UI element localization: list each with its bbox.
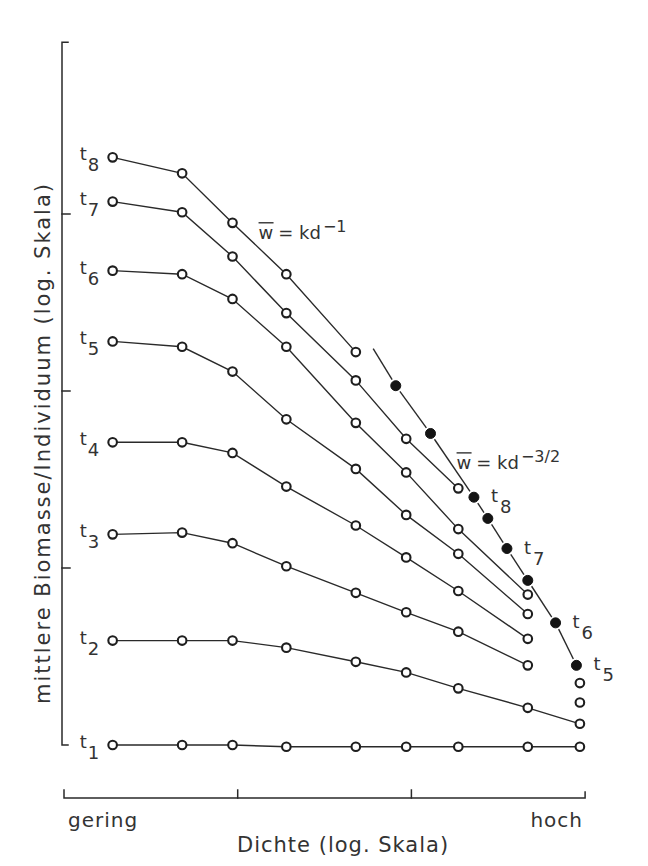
series-label-base: t bbox=[80, 731, 87, 752]
series-label-base: t bbox=[80, 327, 87, 348]
self-thinning-label-t7: t7 bbox=[524, 537, 544, 569]
series-label-subscript: 7 bbox=[88, 199, 99, 220]
x-axis-low-label: gering bbox=[68, 808, 138, 832]
series-label-t2: t2 bbox=[80, 627, 99, 659]
data-point-t7 bbox=[108, 197, 117, 206]
series-label-base: t bbox=[524, 537, 531, 558]
data-point-filled bbox=[551, 618, 561, 628]
series-line-t6 bbox=[113, 271, 528, 595]
data-point-t3 bbox=[576, 698, 585, 707]
data-point-t2 bbox=[576, 719, 585, 728]
self-thinning-line-segment bbox=[400, 391, 427, 427]
series-label-t6: t6 bbox=[80, 257, 99, 289]
data-point-t1 bbox=[108, 741, 117, 750]
data-point-t7 bbox=[282, 309, 291, 318]
series-label-subscript: 4 bbox=[88, 439, 99, 460]
data-point-filled bbox=[502, 544, 512, 554]
x-axis-line bbox=[64, 790, 585, 798]
data-point-t3 bbox=[402, 608, 411, 617]
biomass-density-chart: mittlere Biomasse/Individuum (log. Skala… bbox=[0, 0, 648, 866]
series-label-base: t bbox=[80, 627, 87, 648]
series-label-t4: t4 bbox=[80, 428, 99, 460]
series-line-t2 bbox=[113, 641, 580, 724]
data-point-t7 bbox=[454, 484, 463, 493]
equation-slope-minus-1: w= kd−1 bbox=[259, 217, 347, 243]
data-point-t6 bbox=[454, 525, 463, 534]
data-point-t8 bbox=[178, 169, 187, 178]
data-point-t6 bbox=[228, 295, 237, 304]
data-point-t6 bbox=[352, 419, 361, 428]
self-thinning-label-t5: t5 bbox=[593, 653, 613, 685]
series-label-subscript: 7 bbox=[533, 548, 544, 569]
data-point-t6 bbox=[178, 270, 187, 279]
axes bbox=[62, 42, 585, 798]
data-point-t3 bbox=[178, 528, 187, 537]
equation-rhs: = kd bbox=[476, 452, 519, 473]
series-label-t1: t1 bbox=[80, 731, 99, 763]
series-label-base: t bbox=[80, 428, 87, 449]
equation-exponent: −3/2 bbox=[521, 447, 560, 466]
data-point-filled bbox=[523, 575, 533, 585]
data-point-t6 bbox=[108, 266, 117, 275]
data-point-t8 bbox=[282, 270, 291, 279]
series-label-t7: t7 bbox=[80, 188, 99, 220]
data-point-t2 bbox=[402, 668, 411, 677]
data-point-t5 bbox=[108, 337, 117, 346]
data-point-t5 bbox=[402, 511, 411, 520]
y-axis-label: mittlere Biomasse/Individuum (log. Skala… bbox=[31, 182, 55, 704]
data-point-t3 bbox=[523, 661, 532, 670]
data-point-t1 bbox=[228, 741, 237, 750]
data-point-t5 bbox=[454, 550, 463, 559]
data-point-t7 bbox=[178, 208, 187, 217]
data-point-filled bbox=[391, 381, 401, 391]
data-point-t2 bbox=[454, 684, 463, 693]
data-point-t3 bbox=[454, 627, 463, 636]
figure: mittlere Biomasse/Individuum (log. Skala… bbox=[0, 0, 648, 866]
data-point-filled bbox=[426, 428, 436, 438]
series-label-base: t bbox=[491, 485, 498, 506]
series-label-subscript: 2 bbox=[88, 638, 99, 659]
data-point-t1 bbox=[576, 742, 585, 751]
data-point-t7 bbox=[228, 252, 237, 261]
data-point-t2 bbox=[352, 658, 361, 667]
series-label-subscript: 3 bbox=[88, 531, 99, 552]
equation-variable: w bbox=[259, 222, 274, 243]
data-point-t8 bbox=[108, 153, 117, 162]
series-label-subscript: 6 bbox=[88, 268, 99, 289]
self-thinning-line-segment bbox=[492, 524, 504, 542]
self-thinning-line-segment bbox=[478, 503, 484, 513]
series-label-subscript: 6 bbox=[582, 622, 593, 643]
self-thinning-label-t6: t6 bbox=[573, 611, 593, 643]
data-point-t3 bbox=[108, 530, 117, 539]
equation-rhs: = kd bbox=[278, 222, 321, 243]
x-axis-label: Dichte (log. Skala) bbox=[237, 833, 449, 857]
self-thinning-line-segment bbox=[373, 349, 392, 380]
data-point-t3 bbox=[282, 562, 291, 571]
data-point-t4 bbox=[228, 449, 237, 458]
data-point-t6 bbox=[402, 468, 411, 477]
self-thinning-line-segment bbox=[511, 554, 524, 574]
data-point-filled bbox=[469, 492, 479, 502]
series-label-base: t bbox=[573, 611, 580, 632]
self-thinning-line-segment bbox=[559, 629, 574, 659]
data-point-t5 bbox=[352, 465, 361, 474]
x-axis-high-label: hoch bbox=[530, 808, 583, 832]
data-point-t1 bbox=[282, 742, 291, 751]
data-point-t5 bbox=[228, 367, 237, 376]
data-point-t8 bbox=[352, 348, 361, 357]
data-point-t2 bbox=[228, 636, 237, 645]
data-point-filled bbox=[571, 660, 581, 670]
series-label-subscript: 8 bbox=[88, 154, 99, 175]
series-label-base: t bbox=[80, 257, 87, 278]
series-label-subscript: 5 bbox=[88, 338, 99, 359]
data-point-t4 bbox=[282, 482, 291, 491]
data-point-t6 bbox=[523, 590, 532, 599]
data-point-t6 bbox=[282, 342, 291, 351]
series-label-subscript: 8 bbox=[500, 496, 511, 517]
series-label-subscript: 5 bbox=[602, 664, 613, 685]
series-label-base: t bbox=[80, 520, 87, 541]
equation-exponent: −1 bbox=[323, 217, 347, 236]
data-point-t4 bbox=[178, 438, 187, 447]
data-point-t5 bbox=[282, 415, 291, 424]
series-label-base: t bbox=[80, 188, 87, 209]
